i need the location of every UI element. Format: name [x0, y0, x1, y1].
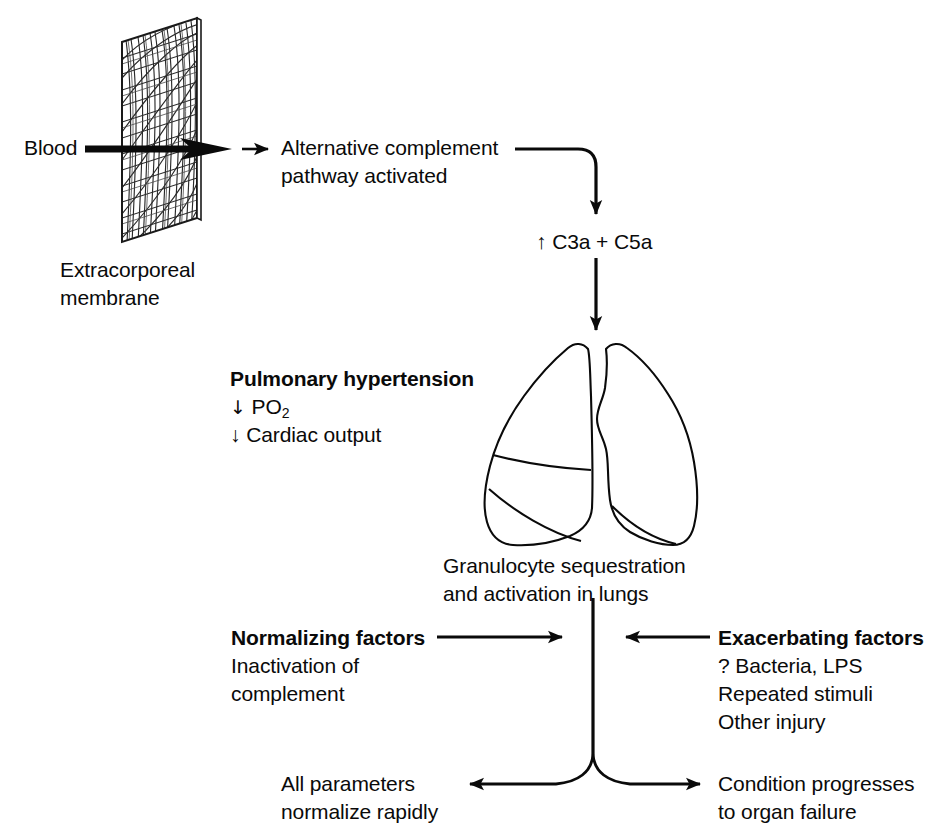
trunk-split-left-arrow — [470, 754, 593, 784]
anaphylatoxins-label: ↑ C3a + C5a — [536, 228, 652, 256]
outcome-bad-line-2: to organ failure — [718, 798, 914, 826]
woven-mesh-membrane-icon — [122, 18, 201, 243]
complement-node: Alternative complement pathway activated — [281, 134, 498, 190]
membrane-caption-line-2: membrane — [60, 284, 195, 312]
down-arrow-glyph-po2: ↓ — [230, 396, 246, 418]
outcome-good-node: All parameters normalize rapidly — [281, 770, 438, 826]
exacerbating-heading: Exacerbating factors — [718, 624, 924, 652]
outcome-bad-line-1: Condition progresses — [718, 770, 914, 798]
exacerbating-factors-node: Exacerbating factors ? Bacteria, LPS Rep… — [718, 624, 924, 736]
exacerbating-line-3: Repeated stimuli — [718, 680, 924, 708]
outcome-good-line-2: normalize rapidly — [281, 798, 438, 826]
normalizing-heading: Normalizing factors — [231, 624, 425, 652]
pulmonary-node: Pulmonary hypertension ↓ PO2 ↓ Cardiac o… — [230, 365, 474, 449]
blood-label: Blood — [24, 134, 77, 162]
complement-line-1: Alternative complement — [281, 134, 498, 162]
pulmonary-cardiac-output-line: ↓ Cardiac output — [230, 421, 474, 449]
complement-to-c3a-elbow-arrow — [515, 149, 596, 214]
normalizing-factors-node: Normalizing factors Inactivation of comp… — [231, 624, 425, 708]
granulocyte-line-2: and activation in lungs — [443, 580, 686, 608]
exacerbating-line-4: Other injury — [718, 708, 924, 736]
lungs-icon — [485, 344, 697, 545]
membrane-caption-line-1: Extracorporeal — [60, 256, 195, 284]
outcome-good-line-1: All parameters — [281, 770, 438, 798]
pulmonary-po2-text: PO2 — [246, 395, 290, 418]
exacerbating-line-2: ? Bacteria, LPS — [718, 652, 924, 680]
trunk-split-right-arrow — [593, 754, 700, 784]
complement-line-2: pathway activated — [281, 162, 498, 190]
granulocyte-line-1: Granulocyte sequestration — [443, 552, 686, 580]
diagram-canvas: Blood Extracorporeal membrane Alternativ… — [0, 0, 942, 827]
pulmonary-heading: Pulmonary hypertension — [230, 365, 474, 393]
granulocyte-node: Granulocyte sequestration and activation… — [443, 552, 686, 608]
pulmonary-po2-line: ↓ PO2 — [230, 393, 474, 421]
po2-subscript: 2 — [282, 405, 290, 421]
membrane-caption: Extracorporeal membrane — [60, 256, 195, 312]
outcome-bad-node: Condition progresses to organ failure — [718, 770, 914, 826]
normalizing-line-3: complement — [231, 680, 425, 708]
normalizing-line-2: Inactivation of — [231, 652, 425, 680]
